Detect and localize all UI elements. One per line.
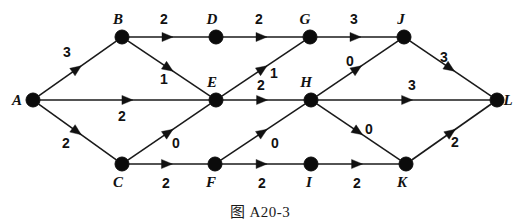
graph-node-i[interactable]: I	[304, 157, 318, 190]
graph-edge	[129, 32, 209, 41]
node-dot[interactable]	[209, 30, 223, 44]
edge-weight-label: 2	[257, 77, 265, 93]
node-label: G	[300, 11, 311, 27]
graph-edge	[410, 41, 491, 96]
edge-weight-label: 3	[408, 77, 416, 93]
graph-edge	[39, 104, 117, 160]
graph-edge	[129, 159, 208, 168]
graph-node-c[interactable]: C	[113, 157, 129, 190]
figure-caption: 图 A20-3	[0, 200, 520, 221]
edge-arrow-icon	[350, 32, 361, 41]
edge-arrow-icon	[352, 159, 363, 168]
edge-weight-label: 2	[160, 11, 168, 27]
node-label: B	[112, 11, 123, 27]
edge-arrow-icon	[256, 32, 267, 41]
node-label: L	[502, 92, 512, 108]
edge-weight-label: 0	[271, 135, 279, 151]
node-dot[interactable]	[115, 157, 129, 171]
node-dot[interactable]	[303, 30, 317, 44]
edge-arrow-icon	[351, 125, 363, 135]
edge-weight-label: 2	[255, 11, 263, 27]
graph-node-l[interactable]: L	[490, 92, 513, 108]
graph-node-g[interactable]: G	[300, 11, 317, 44]
edge-weight-label: 0	[172, 135, 180, 151]
edge-arrow-icon	[256, 159, 267, 168]
edge-weight-label: 1	[270, 65, 278, 81]
node-label: H	[299, 74, 313, 90]
edge-weight-label: 1	[160, 71, 168, 87]
graph-edge	[318, 95, 490, 104]
graph-node-e[interactable]: E	[206, 74, 223, 107]
graph-node-j[interactable]: J	[396, 11, 411, 44]
edge-weight-label: 0	[346, 53, 354, 69]
edge-weight-label: 2	[162, 175, 170, 191]
node-label: F	[205, 174, 216, 190]
edge-weight-label: 2	[62, 135, 70, 151]
graph-edge	[128, 104, 210, 160]
edge-weight-label: 2	[353, 175, 361, 191]
node-dot[interactable]	[490, 93, 504, 107]
graph-edge	[223, 95, 304, 104]
graph-edge	[317, 104, 400, 160]
graph-node-h[interactable]: H	[299, 74, 318, 107]
graph-edge	[318, 159, 399, 168]
edge-weight-label: 2	[118, 108, 126, 124]
graph-node-b[interactable]: B	[112, 11, 129, 44]
graph-edge	[128, 41, 210, 96]
edge-weight-label: 3	[63, 44, 71, 60]
graph-node-d[interactable]: D	[206, 11, 223, 44]
edges-layer	[39, 32, 492, 168]
node-dot[interactable]	[26, 93, 40, 107]
node-dot[interactable]	[209, 93, 223, 107]
graph-edge	[317, 41, 398, 96]
graph-diagram: ABCDEFGHIJKL 3222120212023030232	[0, 0, 520, 221]
edge-weight-label: 3	[440, 49, 448, 65]
edge-arrow-icon	[70, 125, 82, 135]
graph-node-a[interactable]: A	[11, 92, 40, 108]
graph-edge	[223, 32, 303, 41]
figure-canvas: ABCDEFGHIJKL 3222120212023030232 图 A20-3	[0, 0, 520, 221]
graph-edge	[412, 104, 492, 160]
graph-edge	[40, 95, 209, 104]
edge-arrow-icon	[162, 32, 173, 41]
edge-weight-label: 2	[451, 134, 459, 150]
edge-arrow-icon	[161, 159, 172, 168]
edge-arrow-icon	[161, 61, 173, 71]
graph-node-k[interactable]: K	[396, 157, 413, 190]
edge-arrow-icon	[256, 129, 268, 139]
edge-weight-label: 3	[350, 11, 358, 27]
node-dot[interactable]	[399, 157, 413, 171]
graph-edge	[222, 159, 304, 168]
node-label: C	[113, 174, 124, 190]
edge-arrow-icon	[255, 66, 267, 76]
graph-node-f[interactable]: F	[205, 157, 222, 190]
node-dot[interactable]	[397, 30, 411, 44]
node-dot[interactable]	[304, 157, 318, 171]
node-label: E	[206, 74, 217, 90]
edge-weight-label: 0	[365, 121, 373, 137]
node-label: K	[396, 174, 408, 190]
node-label: J	[396, 11, 405, 27]
node-dot[interactable]	[208, 157, 222, 171]
node-dot[interactable]	[115, 30, 129, 44]
node-label: D	[206, 11, 218, 27]
edge-arrow-icon	[257, 95, 268, 104]
node-label: I	[305, 174, 313, 190]
edge-weight-label: 2	[258, 175, 266, 191]
edge-arrow-icon	[122, 95, 133, 104]
node-label: A	[11, 92, 22, 108]
graph-edge	[221, 104, 305, 160]
node-dot[interactable]	[304, 93, 318, 107]
edge-arrow-icon	[70, 66, 82, 76]
graph-edge	[317, 32, 397, 41]
edge-arrow-icon	[402, 95, 413, 104]
graph-edge	[39, 41, 117, 96]
